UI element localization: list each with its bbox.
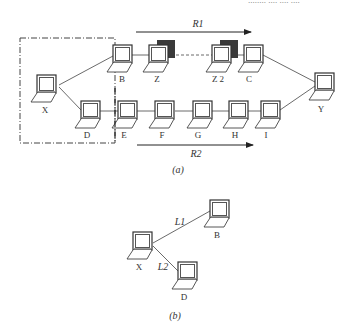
node-label-d: D bbox=[84, 131, 91, 140]
route-r2-label: R2 bbox=[190, 149, 201, 159]
node-label-d-b: D bbox=[181, 293, 188, 302]
link-label-l2: L2 bbox=[158, 262, 169, 272]
laptop-icon bbox=[112, 101, 137, 128]
node-label-i: I bbox=[265, 131, 268, 140]
figure-a bbox=[20, 32, 334, 145]
figure-b bbox=[127, 200, 229, 289]
laptop-icon bbox=[143, 40, 175, 72]
node-label-x: X bbox=[42, 106, 49, 115]
link-label-l1: L1 bbox=[175, 217, 186, 227]
node-label-z: Z bbox=[154, 75, 160, 84]
laptop-icon bbox=[204, 200, 229, 227]
caption-a: (a) bbox=[172, 165, 184, 175]
laptop-icon bbox=[75, 101, 100, 128]
node-label-y: Y bbox=[318, 105, 325, 114]
link-i-y bbox=[280, 86, 315, 110]
caption-b: (b) bbox=[169, 311, 181, 321]
laptop-icon bbox=[149, 101, 174, 128]
laptop-icon bbox=[238, 45, 263, 72]
network-diagram: ........ .... .... .... bbox=[0, 0, 353, 334]
laptop-icon bbox=[187, 101, 212, 128]
link-x-b bbox=[59, 56, 113, 85]
laptop-icon bbox=[107, 45, 132, 72]
node-label-f: F bbox=[159, 131, 164, 140]
node-label-b: B bbox=[119, 75, 125, 84]
route-r1-label: R1 bbox=[192, 19, 203, 29]
laptop-icon bbox=[223, 101, 248, 128]
region-box bbox=[20, 38, 115, 143]
node-label-b-b: B bbox=[214, 231, 220, 240]
link-c-y bbox=[263, 55, 315, 82]
laptop-icon bbox=[309, 73, 334, 100]
node-label-h: H bbox=[232, 131, 239, 140]
node-label-g: G bbox=[195, 131, 202, 140]
laptop-icon bbox=[127, 232, 152, 259]
laptop-icon bbox=[31, 75, 56, 102]
node-label-z2: Z 2 bbox=[212, 75, 224, 84]
laptop-icon bbox=[206, 40, 238, 72]
node-label-c: C bbox=[246, 75, 252, 84]
node-label-e: E bbox=[121, 131, 127, 140]
laptop-icon bbox=[255, 101, 280, 128]
link-x-d bbox=[59, 87, 81, 110]
laptop-icon bbox=[172, 262, 197, 289]
node-label-x-b: X bbox=[136, 263, 143, 272]
